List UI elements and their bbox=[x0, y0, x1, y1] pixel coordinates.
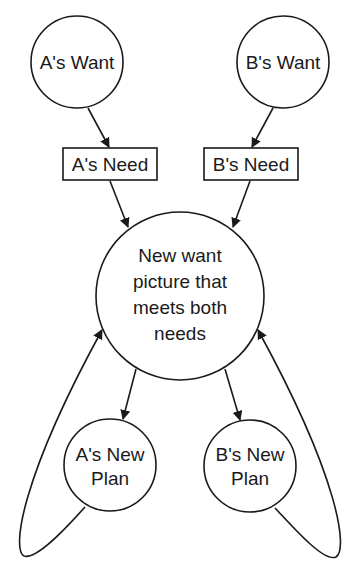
new-want-line-4: needs bbox=[154, 323, 206, 344]
diagram-canvas: A's Want B's Want A's Need B's Need New … bbox=[0, 0, 350, 578]
a-plan-line-2: Plan bbox=[91, 468, 129, 489]
edge-new-to-a-plan bbox=[123, 369, 136, 419]
new-want-line-3: meets both bbox=[133, 297, 227, 318]
edge-b-need-to-new bbox=[233, 181, 250, 227]
a-plan-line-1: A's New bbox=[75, 444, 144, 465]
b-plan-node bbox=[204, 420, 296, 512]
a-need-label: A's Need bbox=[72, 154, 149, 175]
new-want-node bbox=[96, 212, 264, 380]
new-want-line-1: New want bbox=[138, 245, 222, 266]
a-want-label: A's Want bbox=[40, 52, 115, 73]
new-want-line-2: picture that bbox=[133, 271, 228, 292]
edge-a-need-to-new bbox=[110, 181, 128, 227]
b-want-label: B's Want bbox=[246, 52, 321, 73]
a-plan-node bbox=[64, 419, 156, 511]
edge-b-want-to-need bbox=[252, 108, 273, 147]
edge-a-want-to-need bbox=[88, 108, 109, 147]
b-need-label: B's Need bbox=[213, 154, 290, 175]
b-plan-line-2: Plan bbox=[231, 468, 269, 489]
edge-new-to-b-plan bbox=[225, 369, 240, 420]
b-plan-line-1: B's New bbox=[215, 444, 284, 465]
